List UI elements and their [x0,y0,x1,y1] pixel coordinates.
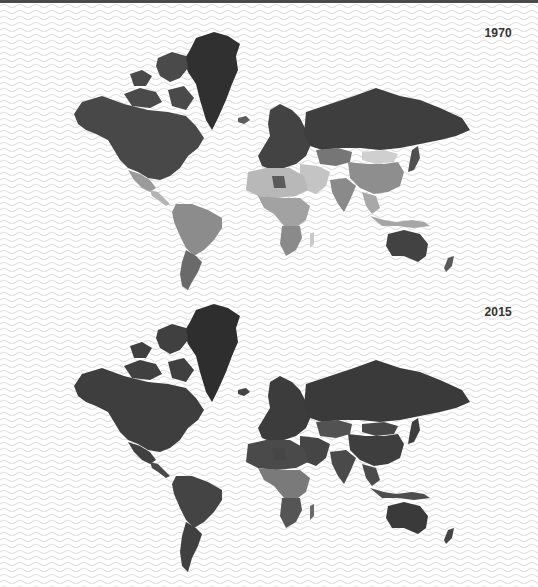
region-south-america-north [172,476,222,528]
region-mongolia [362,422,398,436]
region-arctic-canada [124,52,194,110]
region-southern-africa [280,226,302,256]
region-china [348,434,404,466]
region-russia [304,360,470,422]
region-japan [408,418,420,444]
region-new-zealand [444,256,454,272]
region-indonesia [370,216,430,228]
region-india [330,450,356,484]
region-central-asia [316,420,352,438]
region-madagascar [310,504,314,520]
region-greenland [184,32,240,130]
region-sub-saharan-africa [258,468,310,498]
region-south-america-north [172,204,222,256]
region-south-america-south [180,250,202,290]
map-panel-2015: 2015 [0,290,538,580]
region-central-america [150,462,170,478]
region-india [330,178,356,212]
region-central-america [150,190,170,206]
region-new-zealand [444,528,454,544]
region-greenland [184,304,240,402]
region-southern-africa [280,498,302,528]
region-indonesia [370,488,430,500]
region-sub-saharan-africa [258,196,310,226]
region-libya [272,176,286,188]
region-europe [258,104,312,170]
region-central-asia [316,148,352,166]
world-map-1970 [0,0,538,290]
world-map-2015 [0,290,538,587]
region-japan [408,146,420,172]
region-southeast-asia [362,464,380,486]
region-arctic-canada [124,324,194,382]
region-southeast-asia [362,192,380,214]
region-china [348,162,404,194]
region-mongolia [362,150,398,164]
region-iceland [238,388,250,396]
region-libya [272,448,286,460]
region-south-america-south [180,522,202,572]
year-label-1970: 1970 [485,26,513,40]
region-europe [258,376,312,442]
region-russia [304,88,470,150]
map-panel-1970: 1970 [0,0,538,290]
region-australia [386,230,428,262]
region-madagascar [310,232,314,248]
region-iceland [238,116,250,124]
region-australia [386,502,428,534]
year-label-2015: 2015 [485,305,513,319]
